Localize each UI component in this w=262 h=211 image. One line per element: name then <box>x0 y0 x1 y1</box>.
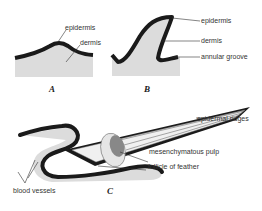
label-a-epidermis: epidermis <box>65 24 95 31</box>
panel-label-b: B <box>144 84 150 94</box>
label-a-dermis: dermis <box>80 39 101 46</box>
label-b-epidermis: epidermis <box>201 17 231 24</box>
label-b-dermis: dermis <box>201 37 222 44</box>
panel-a-drawing <box>15 30 93 77</box>
panel-b-drawing <box>112 17 200 76</box>
label-c-blood-vessels: blood vessels <box>13 187 55 194</box>
label-c-epidermal-ridges: epidermal ridges <box>197 115 249 122</box>
panel-label-a: A <box>49 84 55 94</box>
label-c-mesenchymatous-pulp: mesenchymatous pulp <box>149 148 219 155</box>
label-b-annular-groove: annular groove <box>201 53 248 60</box>
panel-label-c: C <box>107 186 113 196</box>
feather-development-diagram <box>0 0 262 211</box>
label-c-follicle: follicle of feather <box>148 163 199 170</box>
